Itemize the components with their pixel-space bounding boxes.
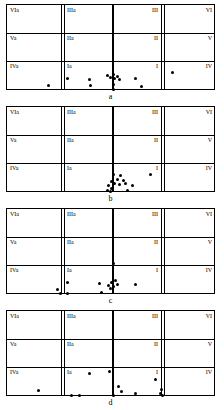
- data-point: [154, 378, 157, 381]
- cell-label-row_top-col4: VI: [167, 109, 212, 115]
- data-point: [116, 283, 119, 286]
- cell-label-row_top-col4: VI: [167, 211, 212, 217]
- row-divider: [7, 367, 214, 368]
- data-point: [117, 385, 120, 388]
- data-point: [113, 77, 116, 80]
- cell-label-row_bottom-col1: IVa: [10, 63, 18, 69]
- cell-label-row_bottom-col4: IV: [167, 63, 212, 69]
- cell-label-row_middle-col3: II: [115, 35, 158, 41]
- cell-label-row_bottom-col3: I: [115, 63, 158, 69]
- data-point: [108, 370, 111, 373]
- cell-label-row_top-col2: IIIa: [67, 211, 76, 217]
- data-point: [171, 71, 174, 74]
- cell-label-row_middle-col2: IIa: [67, 137, 74, 143]
- data-point: [66, 281, 69, 284]
- cell-label-row_middle-col4: V: [167, 341, 212, 347]
- cell-label-row_bottom-col2: Ia: [67, 63, 72, 69]
- data-point: [109, 190, 112, 193]
- data-point: [37, 389, 40, 392]
- cell-label-row_bottom-col1: IVa: [10, 369, 18, 375]
- center-axis-line: [112, 311, 114, 395]
- data-point: [100, 291, 103, 294]
- cell-label-row_middle-col4: V: [167, 35, 212, 41]
- data-point: [66, 292, 69, 295]
- row-divider: [7, 237, 214, 238]
- data-point: [59, 292, 62, 295]
- data-point: [112, 262, 115, 265]
- scatter-panel-a: VIaIIIaIIIVIVaIIaIIVIVaIaIIVa: [6, 4, 215, 90]
- panel-grid: VIaIIIaIIIVIVaIIaIIVIVaIaIIV: [6, 106, 215, 192]
- data-point: [112, 73, 115, 76]
- panel-letter-a: a: [6, 93, 215, 101]
- cell-label-row_top-col4: VI: [167, 313, 212, 319]
- cell-label-row_top-col2: IIIa: [67, 7, 76, 13]
- data-point: [88, 372, 91, 375]
- column-divider: [61, 107, 62, 191]
- cell-label-row_bottom-col2: Ia: [67, 165, 72, 171]
- column-divider: [64, 209, 65, 293]
- data-point: [149, 173, 152, 176]
- column-divider: [61, 311, 62, 395]
- data-point: [114, 279, 117, 282]
- cell-label-row_bottom-col3: I: [115, 267, 158, 273]
- cell-label-row_bottom-col2: Ia: [67, 369, 72, 375]
- column-divider: [64, 5, 65, 89]
- cell-label-row_middle-col2: IIa: [67, 341, 74, 347]
- panel-letter-d: d: [6, 399, 215, 407]
- cell-label-row_bottom-col2: Ia: [67, 267, 72, 273]
- row-divider: [7, 33, 214, 34]
- cell-label-row_middle-col1: Va: [10, 341, 16, 347]
- cell-label-row_bottom-col3: I: [115, 369, 158, 375]
- column-divider: [161, 311, 162, 395]
- column-divider: [64, 107, 65, 191]
- cell-label-row_middle-col4: V: [167, 239, 212, 245]
- cell-label-row_middle-col4: V: [167, 137, 212, 143]
- data-point: [88, 78, 91, 81]
- data-point: [110, 180, 113, 183]
- cell-label-row_middle-col1: Va: [10, 137, 16, 143]
- cell-label-row_top-col3: III: [115, 211, 158, 217]
- data-point: [118, 183, 121, 186]
- row-divider: [7, 265, 214, 266]
- panel-grid: VIaIIIaIIIVIVaIIaIIVIVaIaIIV: [6, 310, 215, 396]
- cell-label-row_bottom-col1: IVa: [10, 165, 18, 171]
- data-point: [89, 84, 92, 87]
- cell-label-row_middle-col2: IIa: [67, 35, 74, 41]
- column-divider: [61, 5, 62, 89]
- cell-label-row_top-col1: VIa: [10, 7, 19, 13]
- data-point: [107, 184, 110, 187]
- data-point: [124, 182, 127, 185]
- data-point: [116, 75, 119, 78]
- panel-grid: VIaIIIaIIIVIVaIIaIIVIVaIaIIV: [6, 208, 215, 294]
- row-divider: [7, 163, 214, 164]
- column-divider: [64, 311, 65, 395]
- data-point: [134, 392, 137, 395]
- data-point: [47, 84, 50, 87]
- cell-label-row_middle-col3: II: [115, 239, 158, 245]
- cell-label-row_top-col3: III: [115, 313, 158, 319]
- data-point: [122, 179, 125, 182]
- data-point: [134, 283, 137, 286]
- data-point: [106, 74, 109, 77]
- data-point: [78, 394, 81, 397]
- data-point: [134, 77, 137, 80]
- cell-label-row_bottom-col1: IVa: [10, 267, 18, 273]
- cell-label-row_middle-col2: IIa: [67, 239, 74, 245]
- cell-label-row_bottom-col4: IV: [167, 165, 212, 171]
- data-point: [112, 173, 115, 176]
- panel-grid: VIaIIIaIIIVIVaIIaIIVIVaIaIIV: [6, 4, 215, 90]
- data-point: [113, 182, 116, 185]
- data-point: [112, 83, 115, 86]
- row-divider: [7, 135, 214, 136]
- center-axis-line: [112, 107, 114, 191]
- column-divider: [161, 209, 162, 293]
- cell-label-row_bottom-col3: I: [115, 165, 158, 171]
- column-divider: [161, 5, 162, 89]
- data-point: [160, 388, 163, 391]
- cell-label-row_top-col1: VIa: [10, 313, 19, 319]
- data-point: [109, 76, 112, 79]
- data-point: [131, 184, 134, 187]
- data-point: [110, 281, 113, 284]
- cell-label-row_top-col2: IIIa: [67, 313, 76, 319]
- data-point: [116, 178, 119, 181]
